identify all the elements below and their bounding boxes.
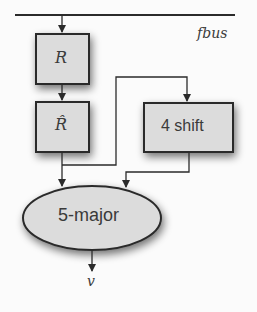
arrowhead-icon (88, 264, 96, 272)
output-v-label: v (87, 273, 95, 289)
arrowhead-icon (122, 180, 130, 188)
node-4-shift-label: 4 shift (161, 117, 204, 135)
node-r-label: R (55, 48, 67, 67)
fbus-label: fbus (197, 25, 227, 41)
node-5-major-label: 5-major (58, 205, 119, 226)
arrowhead-icon (58, 179, 66, 187)
arrowhead-icon (58, 93, 66, 101)
edge-4shift-to-5major (126, 152, 189, 187)
diagram-canvas: fbus R R̂ 4 shift 5-major v (0, 0, 257, 312)
node-r-hat-label: R̂ (55, 115, 67, 134)
arrowhead-icon (183, 94, 191, 102)
arrowhead-icon (58, 25, 66, 33)
diagram-graphics (0, 0, 257, 312)
